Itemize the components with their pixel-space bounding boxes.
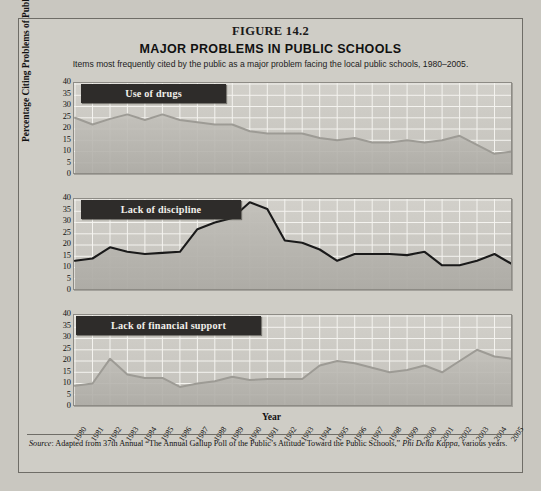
y-tick-label: 30 bbox=[63, 333, 71, 341]
y-tick-label: 15 bbox=[63, 136, 71, 144]
y-tick-label: 25 bbox=[63, 113, 71, 121]
source-text: : Adapted from 37th Annual “The Annual G… bbox=[51, 439, 402, 448]
y-tick-label: 0 bbox=[67, 286, 71, 294]
source-prefix: Source bbox=[29, 439, 51, 448]
y-tick-label: 35 bbox=[63, 322, 71, 330]
y-tick-label: 10 bbox=[63, 147, 71, 155]
y-tick-label: 40 bbox=[63, 310, 71, 318]
y-tick-label: 10 bbox=[63, 379, 71, 387]
figure-panel: FIGURE 14.2 MAJOR PROBLEMS IN PUBLIC SCH… bbox=[18, 18, 523, 473]
series-label-3: Lack of financial support bbox=[76, 316, 261, 335]
y-tick-label: 35 bbox=[63, 90, 71, 98]
y-tick-label: 0 bbox=[67, 170, 71, 178]
source-tail: , various years. bbox=[458, 439, 508, 448]
charts-container: Percentage Citing Problems of Public Sch… bbox=[19, 82, 524, 432]
y-tick-label: 40 bbox=[63, 78, 71, 86]
series-label-2: Lack of discipline bbox=[81, 200, 241, 219]
y-tick-label: 25 bbox=[63, 345, 71, 353]
source-divider bbox=[27, 434, 516, 435]
source-journal: Phi Delta Kappa bbox=[402, 439, 458, 448]
y-tick-label: 30 bbox=[63, 101, 71, 109]
source-note: Source: Adapted from 37th Annual “The An… bbox=[29, 438, 509, 449]
y-tick-label: 35 bbox=[63, 206, 71, 214]
y-tick-label: 30 bbox=[63, 217, 71, 225]
chart-panel: 4035302520151050 Lack of financial suppo… bbox=[19, 314, 524, 419]
chart-panel: 4035302520151050 Use of drugs bbox=[19, 82, 524, 187]
figure-title: MAJOR PROBLEMS IN PUBLIC SCHOOLS bbox=[19, 42, 522, 56]
y-tick-label: 15 bbox=[63, 252, 71, 260]
y-tick-label: 5 bbox=[67, 159, 71, 167]
y-axis-ticks: 4035302520151050 bbox=[45, 82, 71, 174]
y-tick-label: 0 bbox=[67, 402, 71, 410]
y-tick-label: 25 bbox=[63, 229, 71, 237]
y-tick-label: 20 bbox=[63, 124, 71, 132]
y-tick-label: 20 bbox=[63, 356, 71, 364]
y-tick-label: 15 bbox=[63, 368, 71, 376]
y-tick-label: 40 bbox=[63, 194, 71, 202]
y-tick-label: 20 bbox=[63, 240, 71, 248]
y-axis-ticks: 4035302520151050 bbox=[45, 314, 71, 406]
figure-number: FIGURE 14.2 bbox=[19, 24, 522, 39]
figure-header: FIGURE 14.2 MAJOR PROBLEMS IN PUBLIC SCH… bbox=[19, 24, 522, 69]
chart-panel: 4035302520151050 Lack of discipline bbox=[19, 198, 524, 303]
x-axis-label: Year bbox=[19, 411, 524, 422]
figure-subtitle: Items most frequently cited by the publi… bbox=[19, 59, 522, 69]
y-axis-ticks: 4035302520151050 bbox=[45, 198, 71, 290]
series-label-1: Use of drugs bbox=[81, 84, 226, 103]
y-tick-label: 5 bbox=[67, 391, 71, 399]
y-tick-label: 5 bbox=[67, 275, 71, 283]
y-tick-label: 10 bbox=[63, 263, 71, 271]
